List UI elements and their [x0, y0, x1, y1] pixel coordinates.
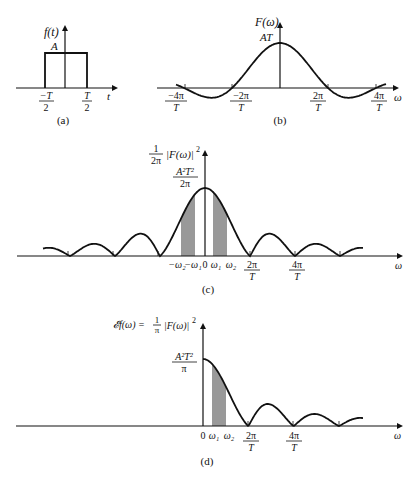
svg-text:2π: 2π [246, 430, 256, 441]
svg-text:−2π: −2π [233, 90, 249, 101]
svg-text:T: T [291, 442, 298, 453]
b-peak-label: AT [259, 31, 273, 43]
d-peak-label: A²T² π [172, 351, 197, 374]
svg-text:A²T²: A²T² [174, 351, 194, 362]
b-sinc-curve [176, 43, 386, 98]
svg-text:1: 1 [154, 143, 159, 154]
c-y-arrow-icon [202, 150, 208, 156]
svg-text:−ω₁: −ω₁ [184, 259, 201, 270]
panel-c: 1 2π |F(ω)| 2 A²T² 2π −ω₂ −ω₁ 0 ω₁ ω₂ 2π… [17, 143, 403, 296]
panel-a: f(t) A t −T 2 T 2 (a) [16, 25, 118, 127]
svg-text:|F(ω)|: |F(ω)| [166, 148, 194, 161]
svg-text:𝓔f(ω) =: 𝓔f(ω) = [113, 319, 145, 331]
svg-text:T: T [248, 442, 255, 453]
panel-d: 𝓔f(ω) = 1 π |F(ω)| 2 A²T² π 0 ω₁ ω₂ 2π T… [16, 315, 403, 468]
c-energy-density-curve [43, 188, 363, 256]
svg-text:T: T [376, 102, 383, 113]
svg-text:2π: 2π [151, 155, 161, 166]
b-tick-2pi: 2π T [310, 90, 326, 113]
a-xlabel: t [107, 90, 111, 102]
svg-text:ω₁: ω₁ [209, 430, 220, 441]
a-tick-neg-half: −T 2 [39, 90, 54, 113]
c-x-arrow-icon [397, 253, 403, 259]
b-xlabel: ω [394, 91, 402, 103]
svg-text:ω₂: ω₂ [224, 430, 235, 441]
svg-text:2π: 2π [313, 90, 323, 101]
a-rect-pulse [45, 53, 87, 88]
svg-text:−T: −T [40, 90, 54, 101]
svg-text:2π: 2π [247, 259, 257, 270]
svg-text:T: T [84, 90, 91, 101]
b-ylabel: F(ω) [254, 15, 279, 29]
b-tick-neg2pi: −2π T [230, 90, 252, 113]
a-caption: (a) [57, 114, 70, 127]
c-omega-ticks: −ω₂ −ω₁ 0 ω₁ ω₂ [168, 259, 236, 270]
svg-text:0: 0 [203, 259, 208, 270]
panel-b: F(ω) AT ω −4π T −2π T 2π T 4π T (b) [157, 15, 402, 127]
d-tick-2pi: 2π T [243, 430, 259, 453]
b-tick-4pi: 4π T [371, 90, 387, 113]
c-caption: (c) [202, 283, 215, 296]
svg-text:4π: 4π [292, 259, 302, 270]
d-xlabel: ω [394, 430, 401, 441]
b-tick-neg4pi: −4π T [165, 90, 187, 113]
svg-text:ω₁: ω₁ [211, 259, 222, 270]
d-one-sided-esd-curve [203, 359, 363, 426]
svg-text:−4π: −4π [168, 90, 184, 101]
d-tick-4pi: 4π T [286, 430, 302, 453]
svg-text:ω₂: ω₂ [226, 259, 237, 270]
svg-text:π: π [155, 325, 160, 335]
c-xlabel: ω [395, 260, 402, 271]
svg-text:T: T [249, 271, 256, 282]
svg-text:A²T²: A²T² [175, 166, 195, 177]
a-y-arrow-icon [62, 25, 68, 31]
svg-text:|F(ω)|: |F(ω)| [164, 320, 189, 332]
svg-text:T: T [315, 102, 322, 113]
svg-text:π: π [181, 363, 186, 374]
svg-text:4π: 4π [289, 430, 299, 441]
svg-text:2: 2 [192, 316, 196, 325]
d-x-arrow-icon [397, 423, 403, 429]
a-amplitude-label: A [50, 40, 58, 52]
a-x-arrow-icon [112, 85, 118, 91]
c-peak-label: A²T² 2π [173, 166, 198, 189]
svg-text:2: 2 [196, 145, 200, 154]
a-ylabel: f(t) [44, 25, 59, 39]
svg-text:T: T [294, 271, 301, 282]
c-tick-4pi: 4π T [289, 259, 305, 282]
d-ylabel: 𝓔f(ω) = 1 π |F(ω)| 2 [113, 315, 196, 335]
b-caption: (b) [274, 114, 287, 127]
svg-text:T: T [238, 102, 245, 113]
svg-text:1: 1 [155, 315, 160, 325]
a-tick-pos-half: T 2 [82, 90, 92, 113]
c-tick-2pi: 2π T [244, 259, 260, 282]
svg-text:2π: 2π [180, 178, 190, 189]
d-omega-ticks: 0 ω₁ ω₂ [201, 430, 235, 441]
svg-text:2: 2 [44, 102, 49, 113]
svg-text:0: 0 [201, 430, 206, 441]
figure-canvas: f(t) A t −T 2 T 2 (a) F(ω) AT ω −4π [0, 0, 417, 486]
svg-text:T: T [173, 102, 180, 113]
svg-text:4π: 4π [374, 90, 384, 101]
d-y-arrow-icon [200, 323, 206, 329]
svg-text:2: 2 [85, 102, 90, 113]
c-ylabel: 1 2π |F(ω)| 2 [149, 143, 200, 166]
d-caption: (d) [201, 455, 214, 468]
